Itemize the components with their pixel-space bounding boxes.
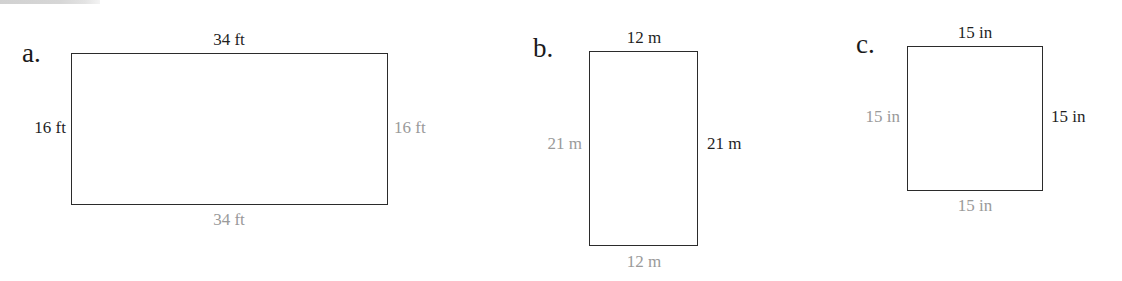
figure-c-square bbox=[907, 46, 1043, 191]
scan-artifact-bar bbox=[0, 0, 100, 4]
figure-a-left-label: 16 ft bbox=[10, 119, 66, 136]
figure-c-left-label: 15 in bbox=[840, 108, 900, 125]
figure-b-part-letter: b. bbox=[533, 35, 553, 62]
figure-a-rectangle bbox=[71, 53, 388, 205]
figure-b-bottom-label: 12 m bbox=[627, 253, 661, 270]
figure-b-left-label: 21 m bbox=[522, 135, 582, 152]
figure-c-right-label: 15 in bbox=[1051, 108, 1111, 125]
figure-a-top-label: 34 ft bbox=[213, 31, 245, 48]
figure-c-bottom-label: 15 in bbox=[958, 197, 992, 214]
figure-a-bottom-label: 34 ft bbox=[213, 211, 245, 228]
figure-a-part-letter: a. bbox=[22, 40, 41, 67]
figure-b-top-label: 12 m bbox=[627, 29, 661, 46]
figure-b-rectangle bbox=[589, 51, 698, 246]
figure-c-top-label: 15 in bbox=[958, 24, 992, 41]
figure-a-right-label: 16 ft bbox=[394, 119, 450, 136]
figure-b-right-label: 21 m bbox=[707, 135, 767, 152]
figure-c-part-letter: c. bbox=[856, 31, 875, 58]
